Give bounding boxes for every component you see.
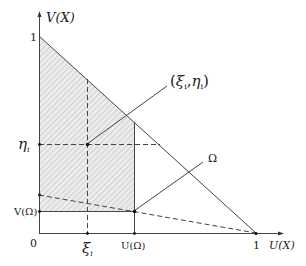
omega-ray bbox=[134, 162, 203, 211]
origin-label: 0 bbox=[30, 237, 37, 250]
point-coordinates-label: (ξi,ηi) bbox=[170, 72, 209, 91]
v-omega-label: V(Ω) bbox=[13, 206, 37, 217]
utility-diagram: V(X) 1 0 1 U(X) ηi V(Ω) ξi U(Ω) (ξi,ηi) … bbox=[0, 0, 306, 266]
lower-dashed-line bbox=[39, 195, 256, 233]
x-axis-arrow-icon bbox=[278, 232, 284, 236]
point-v-omega-tick bbox=[38, 210, 41, 213]
point-u-omega-tick bbox=[133, 232, 136, 235]
point-xi-eta bbox=[86, 143, 90, 147]
eta-label: ηi bbox=[18, 135, 30, 154]
point-x-one bbox=[254, 232, 257, 235]
point-omega bbox=[133, 210, 137, 214]
y-axis-arrow-icon bbox=[38, 11, 42, 17]
omega-label: Ω bbox=[208, 152, 217, 165]
xi-label: ξi bbox=[82, 239, 93, 258]
y-axis-label: V(X) bbox=[46, 10, 75, 25]
point-eta-tick bbox=[38, 143, 41, 146]
point-y-intercept-dashed bbox=[38, 194, 41, 197]
x-axis-label: U(X) bbox=[269, 239, 295, 252]
x-max-label: 1 bbox=[253, 239, 260, 252]
point-xi-tick bbox=[86, 232, 89, 235]
shaded-region bbox=[39, 36, 134, 211]
u-omega-label: U(Ω) bbox=[121, 240, 146, 251]
y-max-label: 1 bbox=[30, 31, 37, 44]
